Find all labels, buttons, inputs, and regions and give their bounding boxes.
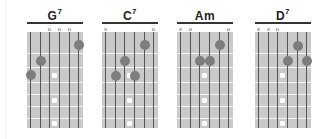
string-line: [69, 32, 70, 128]
fret-line: [27, 82, 83, 83]
chord-diagram-c7: C7 xo: [102, 0, 158, 139]
fret-line: [177, 53, 233, 54]
fret-inlay-marker: [127, 98, 132, 103]
fret-line: [102, 82, 158, 83]
fret-inlay-marker: [52, 98, 57, 103]
title-underline: [255, 22, 311, 24]
fret-inlay-marker: [280, 98, 285, 103]
fret-line: [102, 53, 158, 54]
fret-inlay-marker: [280, 121, 285, 126]
fret-line: [255, 82, 311, 83]
string-line: [228, 32, 229, 128]
string-line: [306, 32, 307, 128]
fretboard-grid: [177, 32, 233, 128]
string-line: [30, 32, 31, 128]
chord-title: C7: [102, 8, 158, 23]
finger-dot: [205, 56, 215, 66]
fret-inlay-marker: [52, 73, 57, 78]
chord-title: D7: [255, 8, 311, 23]
open-string-marker: o: [47, 26, 53, 32]
finger-dot: [302, 56, 312, 66]
string-line: [59, 32, 60, 128]
chord-diagram-d7: D7 xxo: [255, 0, 311, 139]
fret-line: [255, 94, 311, 95]
fret-line: [177, 106, 233, 107]
finger-dot: [111, 71, 121, 81]
string-line: [258, 32, 259, 128]
fret-line: [177, 118, 233, 119]
fret-line: [102, 67, 158, 68]
fret-line: [27, 106, 83, 107]
fret-line: [255, 106, 311, 107]
finger-dot: [140, 40, 150, 50]
fret-inlay-marker: [202, 98, 207, 103]
fret-line: [255, 67, 311, 68]
title-underline: [102, 22, 158, 24]
title-underline: [27, 22, 83, 24]
string-line: [49, 32, 50, 128]
finger-dot: [195, 56, 205, 66]
chord-diagram-am: Am xoo: [177, 0, 233, 139]
fret-line: [255, 53, 311, 54]
string-line: [199, 32, 200, 128]
open-string-marker: o: [57, 26, 63, 32]
fret-inlay-marker: [127, 121, 132, 126]
chord-title: Am: [177, 8, 233, 23]
string-line: [209, 32, 210, 128]
finger-dot: [130, 71, 140, 81]
string-line: [40, 32, 41, 128]
finger-dot: [120, 56, 130, 66]
string-line: [180, 32, 181, 128]
page-edge-line: [5, 0, 6, 139]
fret-line: [27, 94, 83, 95]
chord-diagram-g7: G7 ooo: [27, 0, 83, 139]
title-underline: [177, 22, 233, 24]
fret-line: [102, 118, 158, 119]
open-string-marker: o: [67, 26, 73, 32]
string-line: [277, 32, 278, 128]
finger-dot: [26, 70, 36, 80]
fret-inlay-marker: [52, 121, 57, 126]
muted-string-marker: x: [103, 26, 109, 32]
fretboard-grid: [255, 32, 311, 128]
fret-line: [177, 94, 233, 95]
open-string-marker: o: [275, 26, 281, 32]
finger-dot: [74, 40, 84, 50]
fret-line: [255, 118, 311, 119]
open-string-marker: o: [151, 26, 157, 32]
finger-dot: [215, 40, 225, 50]
string-line: [190, 32, 191, 128]
string-line: [124, 32, 125, 128]
string-line: [153, 32, 154, 128]
finger-dot: [36, 56, 46, 66]
fret-inlay-marker: [202, 121, 207, 126]
fret-line: [27, 67, 83, 68]
open-string-marker: o: [188, 26, 194, 32]
fret-line: [102, 106, 158, 107]
open-string-marker: o: [226, 26, 232, 32]
muted-string-marker: x: [256, 26, 262, 32]
finger-dot: [293, 41, 303, 51]
fret-line: [27, 53, 83, 54]
fret-line: [177, 82, 233, 83]
fret-line: [177, 67, 233, 68]
fret-inlay-marker: [280, 73, 285, 78]
string-line: [105, 32, 106, 128]
muted-string-marker: x: [266, 26, 272, 32]
fret-line: [27, 118, 83, 119]
fret-line: [102, 94, 158, 95]
fretboard-grid: [102, 32, 158, 128]
finger-dot: [283, 56, 293, 66]
chord-title: G7: [27, 8, 83, 23]
fretboard-grid: [27, 32, 83, 128]
string-line: [287, 32, 288, 128]
fret-inlay-marker: [202, 73, 207, 78]
string-line: [268, 32, 269, 128]
muted-string-marker: x: [178, 26, 184, 32]
